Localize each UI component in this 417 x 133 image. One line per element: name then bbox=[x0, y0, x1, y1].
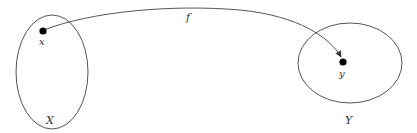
target-point-label: y bbox=[338, 68, 345, 79]
codomain-set-ellipse bbox=[298, 23, 402, 103]
target-point bbox=[339, 58, 346, 65]
codomain-set-label: Y bbox=[345, 114, 354, 127]
source-point-label: x bbox=[39, 36, 45, 47]
mapping-label: f bbox=[185, 11, 192, 24]
mapping-arrow bbox=[44, 8, 341, 57]
domain-set-ellipse bbox=[16, 15, 88, 129]
function-mapping-diagram: x y f X Y bbox=[0, 0, 417, 133]
domain-set-label: X bbox=[45, 114, 55, 127]
source-point bbox=[39, 27, 46, 34]
